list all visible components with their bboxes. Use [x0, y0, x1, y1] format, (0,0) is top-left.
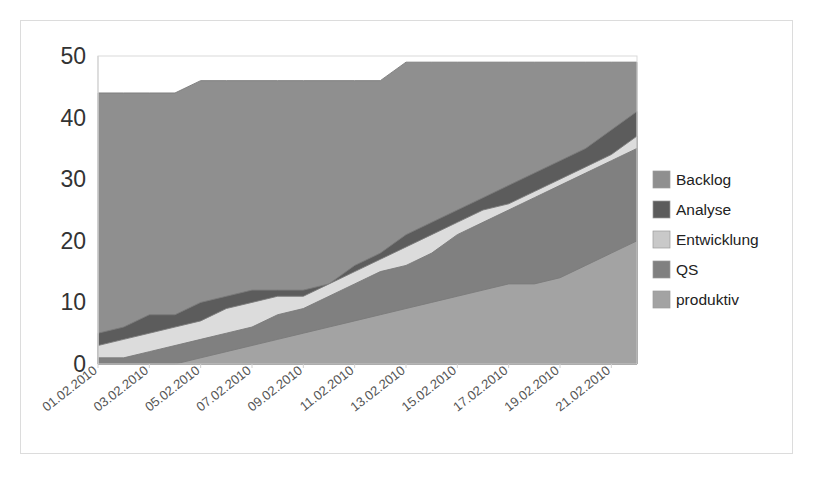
x-tick: 13.02.2010 [347, 363, 408, 415]
y-axis-ticks: 01020304050 [60, 43, 86, 377]
y-tick-label: 30 [60, 166, 86, 192]
stacked-area-chart: 01020304050 01.02.201003.02.201005.02.20… [21, 21, 794, 455]
legend-label: produktiv [676, 291, 739, 308]
x-tick: 09.02.2010 [245, 363, 306, 415]
x-tick-label: 11.02.2010 [297, 363, 357, 414]
x-tick-label: 17.02.2010 [450, 363, 511, 415]
x-tick: 17.02.2010 [450, 363, 511, 415]
legend-swatch [653, 261, 670, 278]
x-tick: 01.02.2010 [39, 363, 100, 415]
x-tick: 15.02.2010 [399, 363, 460, 415]
y-tick-label: 10 [60, 289, 86, 315]
chart-frame: 01020304050 01.02.201003.02.201005.02.20… [20, 20, 793, 454]
x-axis-ticks: 01.02.201003.02.201005.02.201007.02.2010… [39, 363, 613, 415]
y-tick-label: 20 [60, 228, 86, 254]
legend-swatch [653, 201, 670, 218]
x-tick: 07.02.2010 [193, 363, 254, 415]
x-tick-label: 09.02.2010 [245, 363, 306, 415]
legend-item-backlog[interactable]: Backlog [653, 171, 731, 188]
x-tick-label: 19.02.2010 [501, 363, 562, 415]
chart-canvas: 01020304050 01.02.201003.02.201005.02.20… [21, 21, 794, 455]
legend-swatch [653, 291, 670, 308]
legend-label: QS [676, 261, 698, 278]
legend-item-analyse[interactable]: Analyse [653, 201, 731, 218]
x-tick: 11.02.2010 [297, 363, 357, 414]
legend-label: Entwicklung [676, 231, 759, 248]
x-tick-label: 21.02.2010 [553, 363, 614, 415]
x-tick-label: 07.02.2010 [193, 363, 254, 415]
x-tick-label: 13.02.2010 [347, 363, 408, 415]
legend-item-entwicklung[interactable]: Entwicklung [653, 231, 759, 248]
x-tick: 05.02.2010 [142, 363, 203, 415]
legend-label: Backlog [676, 171, 731, 188]
x-tick-label: 05.02.2010 [142, 363, 203, 415]
x-tick: 21.02.2010 [553, 363, 614, 415]
x-tick-label: 01.02.2010 [39, 363, 100, 415]
legend-label: Analyse [676, 201, 731, 218]
x-tick-label: 15.02.2010 [399, 363, 460, 415]
x-tick: 19.02.2010 [501, 363, 562, 415]
x-tick: 03.02.2010 [91, 363, 152, 415]
legend-item-qs[interactable]: QS [653, 261, 698, 278]
chart-legend: BacklogAnalyseEntwicklungQSproduktiv [653, 171, 759, 308]
legend-item-produktiv[interactable]: produktiv [653, 291, 739, 308]
legend-swatch [653, 171, 670, 188]
series-layer [98, 62, 637, 364]
x-tick-label: 03.02.2010 [91, 363, 152, 415]
legend-swatch [653, 231, 670, 248]
y-tick-label: 40 [60, 105, 86, 131]
y-tick-label: 50 [60, 43, 86, 69]
